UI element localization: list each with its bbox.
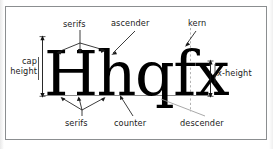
- label-descender: descender: [180, 119, 224, 129]
- typography-anatomy-diagram: Hhqfx: [0, 0, 273, 149]
- label-cap-height-line2: height: [5, 67, 37, 77]
- label-serifs-bottom: serifs: [65, 119, 88, 129]
- label-serifs-top: serifs: [63, 20, 86, 30]
- label-x-height: x-height: [217, 69, 252, 79]
- specimen-text: Hhqfx: [44, 37, 230, 110]
- label-ascender: ascender: [111, 19, 149, 29]
- label-kern: kern: [188, 19, 206, 29]
- label-counter: counter: [114, 119, 146, 129]
